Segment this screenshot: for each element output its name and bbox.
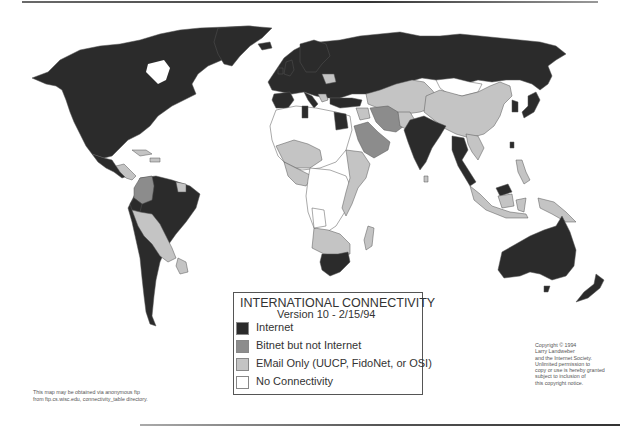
region-sri-lanka	[424, 176, 428, 182]
region-guyana	[176, 182, 186, 192]
legend-item-none: No Connectivity	[234, 376, 422, 394]
region-taiwan	[510, 142, 514, 148]
bottom-rule	[140, 424, 620, 426]
legend-item-email: EMail Only (UUCP, FidoNet, or OSI)	[234, 358, 422, 376]
region-philippines	[516, 160, 530, 184]
swatch-email	[236, 358, 249, 371]
region-south-africa	[320, 252, 350, 276]
region-iberia	[272, 92, 294, 108]
region-india	[404, 116, 446, 170]
legend-item-bitnet: Bitnet but not Internet	[234, 340, 422, 358]
ftp-note: This map may be obtained via anonymous f…	[33, 389, 148, 403]
legend-label: EMail Only (UUCP, FidoNet, or OSI)	[256, 357, 432, 369]
region-southern-africa-email	[312, 228, 350, 256]
region-madagascar	[364, 226, 374, 250]
region-turkey-area	[356, 108, 370, 120]
swatch-bitnet	[236, 340, 249, 353]
region-japan	[522, 92, 540, 118]
legend-item-internet: Internet	[234, 322, 422, 340]
region-korea	[512, 100, 518, 112]
legend-label: Bitnet but not Internet	[256, 339, 361, 351]
region-paraguay	[176, 258, 188, 274]
region-egypt	[334, 112, 348, 130]
region-indochina	[466, 134, 484, 160]
region-tunisia	[302, 106, 308, 118]
region-iceland	[258, 42, 272, 50]
region-angola	[312, 208, 326, 228]
region-uk	[278, 60, 294, 76]
region-new-zealand	[576, 274, 604, 302]
region-tasmania	[544, 286, 550, 292]
region-australia	[498, 216, 576, 280]
swatch-none	[236, 376, 249, 389]
swatch-internet	[236, 322, 249, 335]
region-colombia	[134, 176, 154, 204]
map-legend: INTERNATIONAL CONNECTIVITY Version 10 - …	[233, 292, 423, 395]
legend-label: Internet	[256, 321, 293, 333]
legend-version: Version 10 - 2/15/94	[277, 308, 375, 320]
region-new-guinea	[538, 198, 576, 222]
copyright-notice: Copyright © 1994 Larry Landweber and the…	[535, 342, 605, 386]
legend-label: No Connectivity	[256, 375, 333, 387]
region-caribbean	[132, 150, 160, 162]
region-balkans	[318, 94, 328, 102]
